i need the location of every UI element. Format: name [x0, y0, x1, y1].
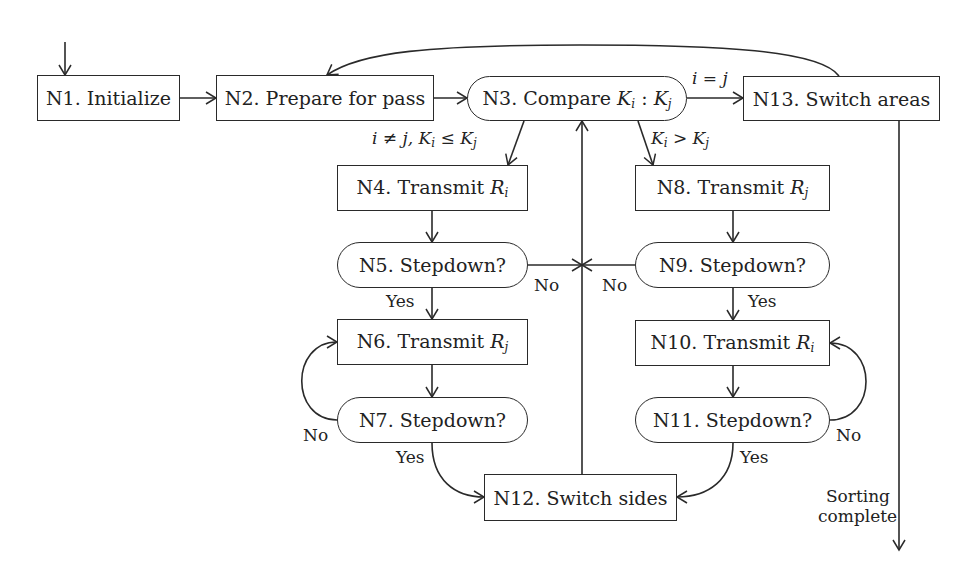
node-n10-label: N10. Transmit Ri — [651, 331, 815, 355]
label-n11-no: No — [836, 427, 861, 444]
node-n1-initialize: N1. Initialize — [37, 75, 180, 121]
node-n5-label: N5. Stepdown? — [359, 254, 506, 276]
label-n11-yes: Yes — [740, 449, 769, 466]
node-n11-stepdown: N11. Stepdown? — [635, 397, 830, 443]
node-n13-switch-areas: N13. Switch areas — [743, 76, 940, 121]
node-n3-compare: N3. Compare Ki : Kj — [467, 76, 687, 121]
node-n12-label: N12. Switch sides — [494, 487, 668, 509]
node-n8-transmit-rj: N8. Transmit Rj — [635, 165, 830, 211]
label-n9-no: No — [602, 277, 627, 294]
node-n4-transmit-ri: N4. Transmit Ri — [337, 165, 528, 211]
node-n8-label: N8. Transmit Rj — [657, 176, 809, 200]
edge-n7-n12 — [432, 443, 484, 497]
node-n7-label: N7. Stepdown? — [359, 409, 506, 431]
node-n1-label: N1. Initialize — [46, 87, 171, 109]
label-n5-no: No — [534, 277, 559, 294]
node-n6-label: N6. Transmit Rj — [357, 330, 509, 354]
node-n2-label: N2. Prepare for pass — [225, 87, 425, 109]
node-n13-label: N13. Switch areas — [753, 88, 931, 110]
label-n7-yes: Yes — [396, 449, 425, 466]
label-le-condition: i ≠ j, Ki ≤ Kj — [372, 130, 477, 149]
node-n6-transmit-rj: N6. Transmit Rj — [337, 319, 528, 365]
label-gt-condition: Ki > Kj — [651, 130, 709, 149]
edge-n7-n6-loop — [302, 342, 337, 420]
node-n11-label: N11. Stepdown? — [653, 409, 812, 431]
node-n9-stepdown: N9. Stepdown? — [635, 242, 830, 288]
node-n2-prepare-for-pass: N2. Prepare for pass — [216, 75, 434, 121]
label-i-equals-j: i = j — [692, 70, 728, 87]
node-n3-label: N3. Compare Ki : Kj — [482, 87, 671, 111]
node-n12-switch-sides: N12. Switch sides — [484, 474, 677, 521]
edge-n13-n2 — [327, 45, 839, 76]
label-n5-yes: Yes — [386, 293, 415, 310]
node-n5-stepdown: N5. Stepdown? — [337, 242, 528, 288]
edge-n11-n10-loop — [830, 343, 866, 420]
label-sorting-complete: Sorting complete — [818, 486, 890, 527]
node-n9-label: N9. Stepdown? — [659, 254, 806, 276]
edge-n11-n12 — [677, 443, 733, 497]
node-n10-transmit-ri: N10. Transmit Ri — [635, 320, 830, 366]
node-n4-label: N4. Transmit Ri — [357, 176, 509, 200]
label-n7-no: No — [303, 427, 328, 444]
edge-n3-n4 — [508, 121, 524, 165]
node-n7-stepdown: N7. Stepdown? — [337, 397, 528, 443]
label-n9-yes: Yes — [748, 293, 777, 310]
